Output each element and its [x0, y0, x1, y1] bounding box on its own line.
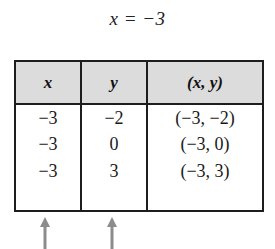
cell-point: (−3, 0): [147, 131, 263, 157]
cell-point: (−3, 3): [147, 157, 263, 183]
table-header-row: x y (x, y): [15, 61, 263, 104]
cell-x: −3: [15, 131, 81, 157]
cell-point: (−3, −2): [147, 104, 263, 131]
table-row: −3 0 (−3, 0): [15, 131, 263, 157]
arrow-up-icon-y-column: [105, 215, 119, 249]
table-empty-row: [15, 184, 263, 211]
column-header-y: y: [81, 61, 147, 104]
cell-y: −2: [81, 104, 147, 131]
column-header-point: (x, y): [147, 61, 263, 104]
cell-y: 0: [81, 131, 147, 157]
equation-caption: x = −3: [0, 8, 275, 30]
table-row: −3 −2 (−3, −2): [15, 104, 263, 131]
table-body: −3 −2 (−3, −2) −3 0 (−3, 0) −3 3 (−3, 3): [15, 104, 263, 211]
cell-x-empty: [15, 184, 81, 211]
cell-x: −3: [15, 157, 81, 183]
column-header-x: x: [15, 61, 81, 104]
cell-point-empty: [147, 184, 263, 211]
value-table: x y (x, y) −3 −2 (−3, −2) −3 0 (−3, 0) −…: [14, 60, 264, 212]
cell-y-empty: [81, 184, 147, 211]
cell-x: −3: [15, 104, 81, 131]
arrow-up-icon-x-column: [38, 215, 52, 249]
table-header: x y (x, y): [15, 61, 263, 104]
table-row: −3 3 (−3, 3): [15, 157, 263, 183]
cell-y: 3: [81, 157, 147, 183]
